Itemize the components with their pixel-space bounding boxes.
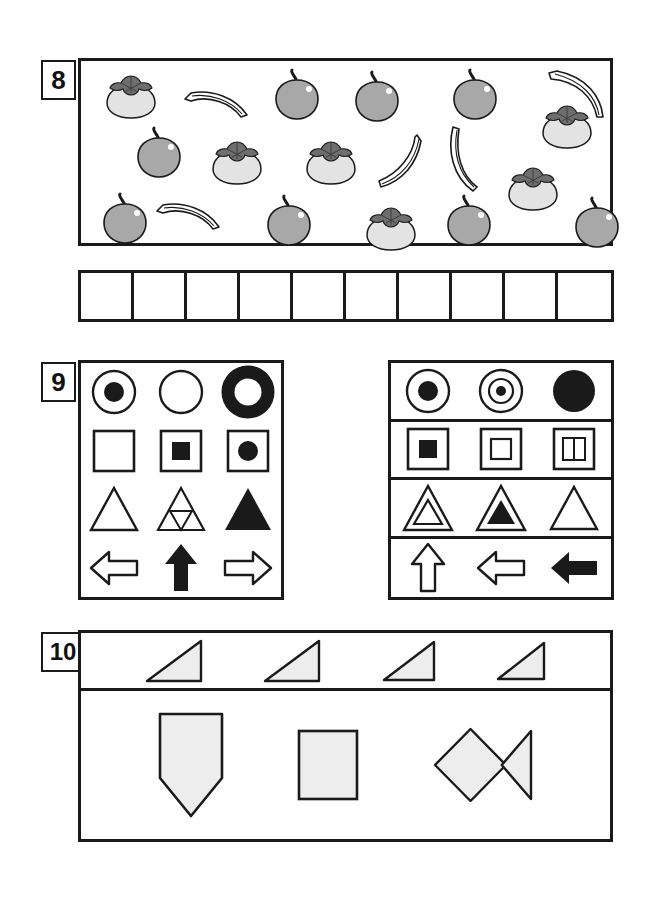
square-with-empty-square-icon bbox=[464, 422, 537, 481]
apple-icon bbox=[263, 195, 315, 247]
apple-icon bbox=[571, 197, 623, 249]
tally-grid[interactable] bbox=[78, 270, 614, 322]
tally-grid-cell[interactable] bbox=[134, 273, 187, 319]
tally-grid-cell[interactable] bbox=[346, 273, 399, 319]
apple-icon bbox=[133, 127, 185, 179]
right-triangle-icon bbox=[382, 640, 436, 682]
circle-double-ring-with-dot-icon bbox=[464, 363, 537, 422]
square-icon bbox=[296, 728, 360, 802]
arrow-right-outline-icon bbox=[214, 539, 281, 598]
persimmon-icon bbox=[363, 205, 419, 251]
shape-panel-left bbox=[78, 360, 284, 600]
arrow-left-outline-icon bbox=[464, 539, 537, 598]
tally-grid-cell[interactable] bbox=[505, 273, 558, 319]
persimmon-icon bbox=[539, 103, 595, 149]
square-outline-icon bbox=[81, 422, 148, 481]
circle-outline-with-filled-dot-icon bbox=[391, 363, 464, 422]
triangle-with-inverted-inner-icon bbox=[148, 480, 215, 539]
tally-grid-cell[interactable] bbox=[558, 273, 611, 319]
triangle-outline-icon bbox=[81, 480, 148, 539]
square-with-filled-square-icon bbox=[148, 422, 215, 481]
question-number-badge-9: 9 bbox=[41, 362, 76, 402]
arrow-up-outline-icon bbox=[391, 539, 464, 598]
question-number-badge-8: 8 bbox=[41, 60, 76, 100]
right-triangle-icon bbox=[145, 639, 203, 683]
persimmon-icon bbox=[303, 139, 359, 185]
triangle-filled-icon bbox=[214, 480, 281, 539]
tally-grid-cell[interactable] bbox=[187, 273, 240, 319]
banana-icon bbox=[443, 123, 491, 193]
triangle-outline-icon bbox=[538, 480, 611, 539]
fruit-field-panel bbox=[78, 58, 613, 246]
persimmon-icon bbox=[209, 139, 265, 185]
apple-icon bbox=[351, 71, 403, 123]
banana-icon bbox=[153, 195, 225, 235]
tally-grid-cell[interactable] bbox=[293, 273, 346, 319]
diamond-with-triangle-icon bbox=[431, 725, 535, 805]
circle-outline-icon bbox=[148, 363, 215, 422]
circle-filled-icon bbox=[538, 363, 611, 422]
tally-grid-cell[interactable] bbox=[81, 273, 134, 319]
apple-icon bbox=[271, 69, 323, 121]
arrow-up-filled-icon bbox=[148, 539, 215, 598]
arrow-left-filled-icon bbox=[538, 539, 611, 598]
apple-icon bbox=[443, 195, 495, 247]
apple-icon bbox=[99, 193, 151, 245]
banana-icon bbox=[181, 83, 253, 123]
triangle-nested-outline-icon bbox=[391, 480, 464, 539]
shape-panel-right bbox=[388, 360, 614, 600]
banana-icon bbox=[369, 129, 425, 191]
circle-outline-with-filled-dot-icon bbox=[81, 363, 148, 422]
tally-grid-cell[interactable] bbox=[240, 273, 293, 319]
pentagon-point-down-icon bbox=[157, 711, 225, 819]
tally-grid-cell[interactable] bbox=[452, 273, 505, 319]
thick-ring-icon bbox=[214, 363, 281, 422]
composite-shape-strip bbox=[81, 691, 610, 839]
square-with-filled-square-icon bbox=[391, 422, 464, 481]
arrow-left-outline-icon bbox=[81, 539, 148, 598]
persimmon-icon bbox=[505, 165, 561, 211]
tally-grid-cell[interactable] bbox=[399, 273, 452, 319]
apple-icon bbox=[449, 69, 501, 121]
right-triangle-icon bbox=[263, 639, 321, 683]
shape-composition-panel bbox=[78, 630, 613, 842]
square-with-filled-circle-icon bbox=[214, 422, 281, 481]
square-with-two-bars-icon bbox=[538, 422, 611, 481]
triangle-strip bbox=[81, 633, 610, 691]
triangle-with-filled-inner-icon bbox=[464, 480, 537, 539]
persimmon-icon bbox=[103, 73, 159, 119]
right-triangle-icon bbox=[496, 641, 546, 681]
